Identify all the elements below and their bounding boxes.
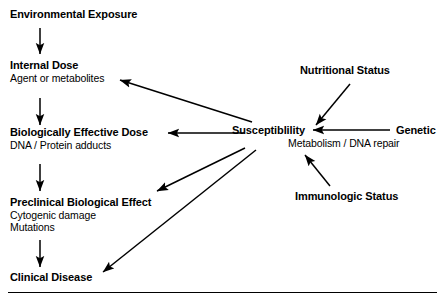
node-nutritional-status: Nutritional Status	[300, 64, 390, 77]
node-preclinical-biological-effect-subtitle-2: Mutations	[10, 221, 151, 233]
node-preclinical-biological-effect-title: Preclinical Biological Effect	[10, 196, 151, 209]
node-biologically-effective-dose-title: Biologically Effective Dose	[10, 126, 148, 139]
node-preclinical-biological-effect-subtitle: Cytogenic damage	[10, 209, 151, 221]
node-biologically-effective-dose-subtitle: DNA / Protein adducts	[10, 139, 148, 151]
node-environmental-exposure-title: Environmental Exposure	[10, 8, 137, 21]
node-clinical-disease: Clinical Disease	[10, 271, 92, 284]
node-immunologic-status-title: Immunologic Status	[295, 190, 398, 203]
node-genetic: Genetic	[396, 124, 436, 137]
arrow-susceptibility-to-internal-dose	[120, 80, 252, 122]
node-susceptibility-subtitle: Metabolism / DNA repair	[288, 137, 400, 149]
arrow-layer	[0, 0, 441, 305]
node-susceptibility-title: Susceptiblility	[232, 124, 400, 137]
diagram-canvas: Environmental Exposure Internal Dose Age…	[0, 0, 441, 305]
arrow-susceptibility-to-preclinical-effect	[157, 148, 245, 191]
node-biologically-effective-dose: Biologically Effective Dose DNA / Protei…	[10, 126, 148, 151]
node-clinical-disease-title: Clinical Disease	[10, 271, 92, 284]
node-genetic-title: Genetic	[396, 124, 436, 137]
node-immunologic-status: Immunologic Status	[295, 190, 398, 203]
bottom-divider	[8, 292, 437, 293]
node-nutritional-status-title: Nutritional Status	[300, 64, 390, 77]
arrow-immunologic-status-to-susceptibility	[305, 155, 330, 186]
node-environmental-exposure: Environmental Exposure	[10, 8, 137, 21]
node-susceptibility: Susceptiblility Metabolism / DNA repair	[232, 124, 400, 149]
node-preclinical-biological-effect: Preclinical Biological Effect Cytogenic …	[10, 196, 151, 234]
node-internal-dose: Internal Dose Agent or metabolites	[10, 59, 104, 84]
node-internal-dose-subtitle: Agent or metabolites	[10, 72, 104, 84]
node-internal-dose-title: Internal Dose	[10, 59, 104, 72]
arrow-nutritional-status-to-susceptibility	[316, 84, 350, 125]
